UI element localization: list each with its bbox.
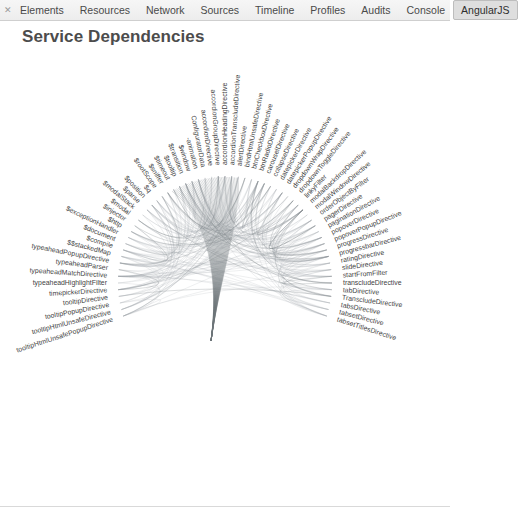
tab-audits[interactable]: Audits (353, 0, 398, 20)
tab-elements[interactable]: Elements (12, 0, 72, 20)
node-label[interactable]: startFromFilter (343, 269, 389, 279)
page-title: Service Dependencies (22, 27, 204, 47)
angularjs-panel: Service Dependencies tooltipHtmlUnsafePo… (0, 21, 450, 507)
service-dependencies-chart: tooltipHtmlUnsafePopupDirectivetooltipHt… (0, 51, 450, 501)
dependency-edge (242, 181, 265, 229)
tab-console[interactable]: Console (399, 0, 454, 20)
tab-timeline[interactable]: Timeline (247, 0, 302, 20)
dependency-bundle-svg[interactable]: tooltipHtmlUnsafePopupDirectivetooltipHt… (0, 51, 450, 501)
node-label[interactable]: transcludeDirective (343, 279, 402, 286)
close-icon[interactable]: ✕ (4, 6, 12, 15)
dependency-edge (266, 196, 312, 241)
node-label[interactable]: accordionHeadingDirective (221, 82, 229, 165)
tab-network[interactable]: Network (138, 0, 193, 20)
tab-angularjs[interactable]: AngularJS (453, 0, 517, 20)
tab-sources[interactable]: Sources (193, 0, 248, 20)
node-label[interactable]: typeaheadHighlightFilter (33, 279, 108, 287)
devtools-tab-list: ElementsResourcesNetworkSourcesTimelineP… (12, 0, 518, 20)
dependency-edge (282, 290, 331, 310)
tab-profiles[interactable]: Profiles (302, 0, 353, 20)
tab-resources[interactable]: Resources (72, 0, 138, 20)
devtools-toolbar: ✕ ElementsResourcesNetworkSourcesTimelin… (0, 0, 450, 21)
edge-bundle-group (118, 176, 332, 341)
